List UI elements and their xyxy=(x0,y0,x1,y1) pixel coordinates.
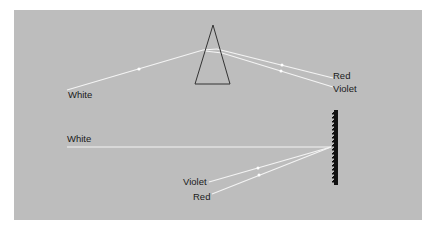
ray-arrow-marker xyxy=(280,70,283,73)
red-ray-out-prism xyxy=(217,49,333,78)
violet-ray-from-grating xyxy=(209,147,331,182)
prism-icon xyxy=(195,25,230,84)
prism-section xyxy=(67,25,333,90)
ray-arrow-marker xyxy=(281,64,284,67)
label-violet-grating: Violet xyxy=(183,177,207,187)
ray-arrow-marker xyxy=(257,167,260,170)
diffraction-grating-icon xyxy=(332,110,338,185)
label-white-prism: White xyxy=(68,90,92,100)
label-red-grating: Red xyxy=(193,192,210,202)
ray-arrow-marker xyxy=(137,67,140,70)
label-white-grating: White xyxy=(67,134,91,144)
ray-arrow-marker xyxy=(258,174,261,177)
label-red-prism: Red xyxy=(333,71,350,81)
white-ray-into-prism xyxy=(67,49,217,90)
optics-diagram xyxy=(0,0,435,228)
label-violet-prism: Violet xyxy=(333,84,357,94)
red-ray-from-grating xyxy=(212,147,331,194)
violet-ray-out-prism xyxy=(205,51,333,87)
